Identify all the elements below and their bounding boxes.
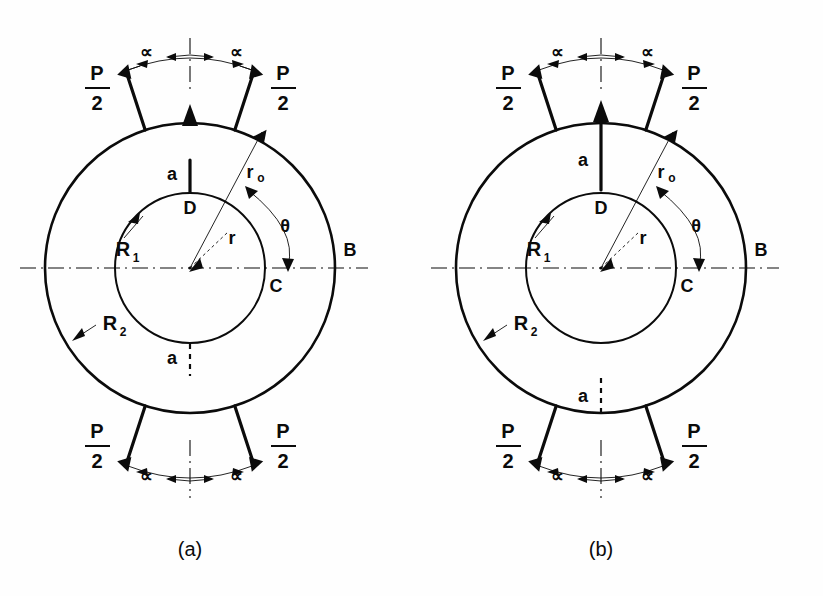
radius-r-label-b: r [639,228,646,248]
alpha-label-bottom-left-a: ∝ [140,466,153,486]
axis-marker-D-a: D [184,198,197,218]
force-label-bottom-right-b: P 2 [682,420,707,472]
section-label-bottom-a: a [167,348,178,368]
caption-b: (b) [589,538,613,560]
force-arrow-top-right-b [646,71,665,130]
diagram-panel-b: ∝ ∝ P 2 P 2 ∝ ∝ [411,0,822,596]
force-arrowhead-bottom-left-b [528,457,546,474]
force-arrowhead-bottom-right-a [245,457,263,474]
radius-ro-line-a [190,132,262,268]
force-label-top-right-b: P 2 [682,62,707,114]
force-label-bottom-left-b: P 2 [496,420,521,472]
force-numerator-br-b: P [687,420,700,442]
force-label-bottom-right-a: P 2 [271,420,296,472]
radius-ro-sub-b: o [668,171,675,185]
theta-head-lower-b [693,258,705,272]
radius-ro-text-a: r [246,162,253,182]
alpha-label-top-left-a: ∝ [140,42,153,62]
radius-ro-line-b [601,132,673,268]
force-denominator-tr-a: 2 [277,92,288,114]
force-arrow-top-left-b [537,71,556,130]
axis-marker-C-b: C [681,276,694,296]
radius-R1-text-a: R [116,238,131,260]
section-label-top-b: a [578,150,589,170]
force-arrowhead-bottom-right-b [656,457,674,474]
radius-r-line-a [190,232,228,268]
radius-ro-head-b [664,125,682,143]
radius-R1-sub-a: 1 [133,251,140,265]
radius-R1-sub-b: 1 [544,251,551,265]
axis-marker-B-a: B [344,240,357,260]
section-label-bottom-b: a [578,386,589,406]
force-arrowhead-top-right-a [245,62,263,79]
force-arrowhead-top-left-b [528,62,546,79]
force-arrowhead-top-left-a [117,62,135,79]
center-point-a [188,266,191,269]
force-denominator-tl-b: 2 [502,92,513,114]
force-numerator-tr-a: P [276,62,289,84]
radius-R2-sub-b: 2 [531,325,538,339]
caption-a: (a) [178,538,202,560]
force-label-top-right-a: P 2 [271,62,296,114]
radius-r-line-b [601,232,639,268]
force-numerator-tr-b: P [687,62,700,84]
diagram-a-svg: ∝ ∝ P 2 P 2 ∝ [0,0,411,596]
theta-head-lower-a [282,258,294,272]
force-denominator-tl-a: 2 [91,92,102,114]
radius-ro-label-b: r o [657,162,675,185]
force-label-top-left-a: P 2 [85,62,110,114]
radius-R2-text-a: R [103,312,118,334]
alpha-label-bottom-right-b: ∝ [641,466,654,486]
force-denominator-bl-b: 2 [502,450,513,472]
theta-label-a: θ [280,216,290,236]
force-numerator-tl-b: P [501,62,514,84]
force-denominator-bl-a: 2 [91,450,102,472]
force-numerator-bl-b: P [501,420,514,442]
alpha-label-top-right-a: ∝ [230,42,243,62]
radius-ro-head-a [253,125,271,143]
diagram-panel-a: ∝ ∝ P 2 P 2 ∝ [0,0,411,596]
force-arrow-bottom-left-b [537,406,556,465]
force-numerator-br-a: P [276,420,289,442]
radius-R1-text-b: R [527,238,542,260]
force-arrow-bottom-left-a [126,406,145,465]
axis-marker-B-b: B [755,240,768,260]
radius-R1-label-b: R 1 [527,238,551,265]
force-denominator-br-a: 2 [277,450,288,472]
theta-label-b: θ [691,216,701,236]
axis-arrowhead-A-b [593,100,609,122]
force-denominator-tr-b: 2 [688,92,699,114]
force-label-bottom-left-a: P 2 [85,420,110,472]
alpha-label-top-right-b: ∝ [641,42,654,62]
radius-R1-head-b [539,213,551,224]
force-numerator-tl-a: P [90,62,103,84]
radius-R2-head-a [72,328,85,341]
section-label-top-a: a [167,164,178,184]
force-numerator-bl-a: P [90,420,103,442]
alpha-label-bottom-right-a: ∝ [230,466,243,486]
center-point-b [599,266,602,269]
alpha-label-top-left-b: ∝ [551,42,564,62]
force-arrow-bottom-right-a [235,406,254,465]
force-arrowhead-top-right-b [656,62,674,79]
radius-R1-head-a [128,213,140,224]
force-arrowhead-bottom-left-a [117,457,135,474]
axis-marker-C-a: C [270,276,283,296]
radius-ro-label-a: r o [246,162,264,185]
radius-ro-text-b: r [657,162,664,182]
alpha-arc-tick-tl-a [128,66,140,70]
alpha-arc-tick-tr-a [240,66,252,70]
force-label-top-left-b: P 2 [496,62,521,114]
axis-marker-D-b: D [595,198,608,218]
force-denominator-br-b: 2 [688,450,699,472]
diagram-b-svg: ∝ ∝ P 2 P 2 ∝ ∝ [411,0,822,596]
radius-R2-label-a: R 2 [103,312,127,339]
figure-sheet: ∝ ∝ P 2 P 2 ∝ [0,0,823,596]
radius-ro-sub-a: o [257,171,264,185]
radius-R2-head-b [483,328,496,341]
radius-R1-label-a: R 1 [116,238,140,265]
alpha-label-bottom-left-b: ∝ [551,466,564,486]
radius-r-label-a: r [228,228,235,248]
force-arrow-top-right-a [235,71,254,130]
force-arrow-bottom-right-b [646,406,665,465]
